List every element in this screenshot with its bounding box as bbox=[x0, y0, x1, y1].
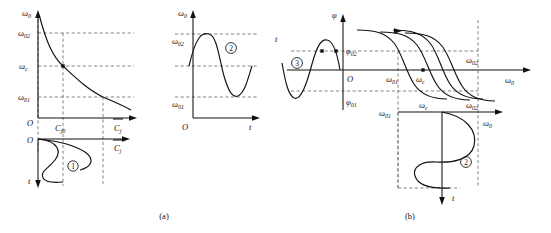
t-axis-label: t bbox=[28, 176, 31, 186]
tick-phi02: φ02 bbox=[346, 46, 357, 57]
badge-1-label: 1 bbox=[71, 162, 75, 171]
plot-bottom-left: O Cj t 1 bbox=[27, 135, 130, 188]
tick-omega02: ω02 bbox=[172, 36, 184, 47]
origin-label: O bbox=[182, 122, 188, 132]
tick-cj0: Cj0 bbox=[55, 123, 65, 134]
tick-omegac-upper: ωc bbox=[416, 74, 425, 85]
caption-a: (a) bbox=[159, 211, 169, 221]
plot-phase: φ φ02 φ01 O t ω01 ωc ω02 ω0 3 bbox=[275, 10, 531, 188]
curve-omega0-vs-cj bbox=[40, 18, 131, 110]
y-axis-label: ω0 bbox=[178, 8, 187, 19]
panel-a: ω0 ω02 ωc ω01 O Cj0 Cj O Cj t 1 bbox=[18, 8, 260, 221]
x-axis-label: t bbox=[249, 122, 252, 132]
marked-point-omegac bbox=[421, 68, 424, 71]
x-axis-arrow bbox=[523, 67, 531, 73]
origin-label: O bbox=[27, 135, 33, 145]
y-axis-label: ω0 bbox=[22, 8, 31, 19]
y-axis-arrow bbox=[190, 10, 196, 18]
x-axis-arrow bbox=[129, 115, 137, 121]
tick-omega01-upper: ω01 bbox=[386, 74, 398, 85]
tick-omega01: ω01 bbox=[18, 92, 30, 103]
curve-sine-vertical bbox=[38, 139, 63, 182]
tick-omega02-lower: ω02 bbox=[466, 100, 478, 111]
tick-omega02-upper: ω02 bbox=[466, 55, 478, 66]
plot-top-left: ω0 ω02 ωc ω01 O Cj0 Cj bbox=[18, 8, 137, 186]
tick-omega01-lower: ω01 bbox=[379, 108, 391, 119]
marked-point-right bbox=[334, 49, 337, 52]
badge-2-label: 2 bbox=[464, 158, 468, 167]
x-axis-label: ω0 bbox=[505, 75, 514, 86]
x-axis-arrow bbox=[252, 115, 260, 121]
origin-label: O bbox=[347, 74, 353, 84]
y-axis-arrow bbox=[340, 14, 346, 22]
y-axis-arrow bbox=[439, 197, 445, 205]
caption-b: (b) bbox=[405, 211, 415, 221]
curve-family-arrow bbox=[394, 28, 402, 34]
x-axis-label: ω0 bbox=[483, 118, 492, 129]
tick-omega02: ω02 bbox=[18, 28, 30, 39]
curve-input-sine bbox=[282, 40, 340, 98]
plot-top-right: ω0 ω02 ω01 O t 2 bbox=[172, 8, 260, 132]
badge-2-label: 2 bbox=[229, 44, 233, 53]
tick-omega01: ω01 bbox=[172, 99, 184, 110]
origin-label: O bbox=[27, 118, 33, 128]
curve-sine-vertical bbox=[414, 112, 474, 188]
t-axis-label: t bbox=[452, 193, 455, 203]
y-axis-arrow bbox=[35, 180, 41, 188]
y-axis-label: φ bbox=[332, 10, 337, 20]
panel-b: φ φ02 φ01 O t ω01 ωc ω02 ω0 3 ω01 ωc ω02… bbox=[275, 10, 531, 221]
curve-omega0-vs-t bbox=[189, 34, 252, 97]
x-axis-arrow bbox=[495, 109, 503, 115]
tick-omegac-lower: ωc bbox=[419, 100, 428, 111]
marked-point-omegac bbox=[61, 64, 64, 67]
figure-container: ω0 ω02 ωc ω01 O Cj0 Cj O Cj t 1 bbox=[0, 0, 551, 233]
curve-family-1 bbox=[357, 30, 447, 99]
tick-omegac: ωc bbox=[19, 61, 28, 72]
x-axis-label: Cj bbox=[114, 123, 122, 134]
x-axis-label: Cj bbox=[114, 143, 122, 154]
x-axis-arrow bbox=[122, 136, 130, 142]
badge-3-label: 3 bbox=[295, 59, 299, 68]
t-axis-label: t bbox=[275, 34, 278, 44]
tick-phi01: φ01 bbox=[346, 97, 357, 108]
curve-sine-vertical-2 bbox=[38, 139, 91, 170]
y-axis-arrow bbox=[35, 10, 41, 18]
marked-point-left bbox=[320, 49, 323, 52]
